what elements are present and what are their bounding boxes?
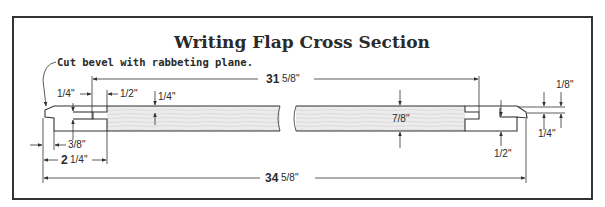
dim-right-bottom: 1/2" (494, 148, 512, 159)
dim-left-tenon-length: 1/2" (120, 88, 138, 99)
dim-thickness: 7/8" (392, 113, 410, 124)
writing-flap-diagram: Writing Flap Cross Section Cut bevel wit… (0, 0, 605, 207)
bevel-note: Cut bevel with rabbeting plane. (57, 56, 253, 68)
board-main-left (107, 106, 280, 131)
dim-breadboard-width-frac: 1/4" (70, 154, 88, 165)
dim-right-top: 1/8" (556, 79, 574, 90)
dim-overall-length: 34 (265, 171, 279, 185)
dim-breadboard-width: 2 (61, 153, 68, 167)
dim-left-tenon-thickness: 1/4" (158, 91, 176, 102)
board-main-right (296, 106, 465, 131)
dim-right-lip: 1/4" (538, 128, 556, 139)
dim-left-bevel-offset: 3/8" (68, 139, 86, 150)
diagram-title: Writing Flap Cross Section (173, 32, 430, 52)
dim-inner-length-frac: 5/8" (282, 73, 300, 84)
dim-overall-length-frac: 5/8" (281, 172, 299, 183)
dim-left-tongue-gap: 1/4" (57, 88, 75, 99)
dim-inner-length: 31 (266, 72, 280, 86)
